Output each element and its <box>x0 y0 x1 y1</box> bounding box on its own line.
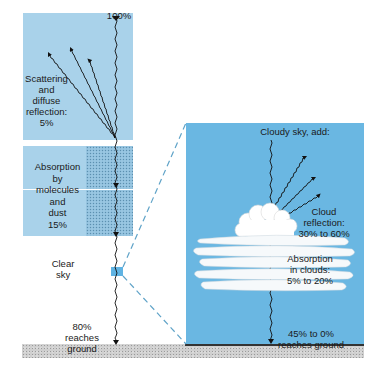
cloud-absorption-line-1: Absorption <box>280 253 340 264</box>
absorption-line-6: 15% <box>30 219 85 231</box>
cloudy-ground-label: 45% to 0% reaches ground <box>275 328 347 350</box>
absorption-line-2: by <box>30 173 85 185</box>
cloud-absorption-line-2: in clouds: <box>280 264 340 275</box>
scatter-ray-2 <box>71 49 115 138</box>
absorption-line-3: molecules <box>30 184 85 196</box>
cloud-reflection-line-1: Cloud <box>294 206 354 217</box>
cloud-reflect-ray-1 <box>272 157 305 212</box>
cloudy-ground-percent: 45% to 0% <box>275 328 347 339</box>
clear-ground-text: reaches ground <box>50 332 114 354</box>
cloud-reflection-line-2: reflection: <box>294 217 354 228</box>
incoming-percent-label: 100% <box>104 10 134 21</box>
absorption-line-4: and <box>30 196 85 208</box>
cloud-absorption-line-3: 5% to 20% <box>280 275 340 286</box>
absorption-line-1: Absorption <box>30 161 85 173</box>
cloud-reflection-line-3: 30% to 60% <box>294 228 354 239</box>
incoming-ray-clear <box>115 18 117 340</box>
clear-sky-line-2: sky <box>46 269 80 280</box>
scattering-line-3: reflection: <box>24 106 69 117</box>
scattering-line-4: 5% <box>24 117 69 128</box>
cloudy-ground-text: reaches ground <box>275 339 347 350</box>
scattering-line-1: Scattering <box>24 73 69 84</box>
cloud-reflection-label: Cloud reflection: 30% to 60% <box>294 206 354 239</box>
absorption-line-5: dust <box>30 207 85 219</box>
zoom-line-top <box>123 123 186 267</box>
scattering-line-2: and diffuse <box>24 84 69 106</box>
scattering-label: Scattering and diffuse reflection: 5% <box>24 73 69 128</box>
zoom-line-bottom <box>123 276 186 344</box>
clear-ground-percent: 80% <box>50 321 114 332</box>
clear-sky-label: Clear sky <box>46 258 80 280</box>
clear-ground-label: 80% reaches ground <box>50 321 114 354</box>
scatter-ray-3 <box>89 60 115 138</box>
cloud-absorption-label: Absorption in clouds: 5% to 20% <box>280 253 340 286</box>
clear-sky-line-1: Clear <box>46 258 80 269</box>
cloudy-sky-header: Cloudy sky, add: <box>255 126 335 137</box>
cumulus-cloud-icon <box>235 203 297 237</box>
absorption-label: Absorption by molecules and dust 15% <box>30 161 85 230</box>
